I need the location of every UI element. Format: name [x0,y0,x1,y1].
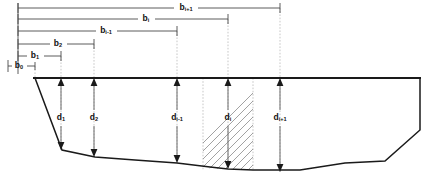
diagram-background [0,0,441,186]
hull-station-diagram: bi+1 bi bi-1 b2 b1 b0 d1 d2 di-1 di di+1 [0,0,441,186]
